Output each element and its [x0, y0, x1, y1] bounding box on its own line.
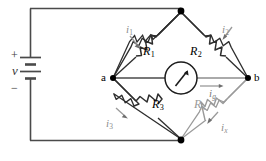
current-arrow-i3 — [116, 108, 128, 119]
resistor-label-R2: R2 — [190, 45, 202, 59]
resistor-label-R2-sub: 2 — [197, 50, 201, 59]
resistor-label-Rx-sub: x — [201, 103, 205, 112]
arm-bottom-left-straight-upper — [113, 78, 136, 101]
current-label-ix-sub: x — [224, 126, 228, 135]
arm-top-right-straight-lower — [226, 57, 248, 78]
resistor-label-R1: R1 — [143, 45, 155, 59]
node-dot-bottom — [178, 137, 185, 144]
source-plus-sign: + — [11, 49, 18, 61]
current-label-i1-sub: 1 — [129, 28, 133, 37]
current-label-i2-sub: 2 — [225, 28, 229, 37]
node-label-b: b — [254, 72, 260, 83]
source-voltage-label: v — [12, 64, 18, 77]
node-label-a: a — [101, 72, 106, 83]
resistor-label-R1-sub: 1 — [150, 50, 154, 59]
node-dot-a — [110, 75, 116, 81]
resistor-label-Rx: Rx — [194, 98, 205, 112]
current-label-i1: i1 — [126, 24, 133, 37]
arm-bottom-right-straight-lower — [181, 120, 206, 139]
current-label-ig-sub: g — [212, 92, 216, 101]
node-dot-top — [178, 8, 185, 15]
node-dot-b — [245, 75, 251, 81]
arm-top-left-straight-upper — [158, 12, 181, 35]
arm-bottom-left-straight-lower — [158, 118, 181, 139]
source-minus-sign: − — [11, 82, 18, 94]
current-arrow-ix — [207, 112, 218, 124]
resistor-label-R3: R3 — [152, 98, 164, 112]
arm-top-left-straight-lower — [113, 57, 136, 78]
arm-bottom-right-straight-upper — [228, 78, 248, 98]
current-label-i3: i3 — [106, 118, 113, 131]
current-label-ig: ig — [209, 88, 216, 101]
resistor-label-R3-sub: 3 — [159, 103, 163, 112]
battery-symbol — [20, 58, 41, 86]
current-label-i3-sub: 3 — [109, 122, 113, 131]
arm-top-right-straight-upper — [181, 12, 204, 35]
current-label-ix: ix — [221, 122, 228, 135]
circuit-diagram-figure: + v − a b R1 R2 R3 Rx i1 i2 i3 ix ig — [0, 0, 266, 161]
galvanometer-branch — [113, 62, 248, 94]
current-label-i2: i2 — [222, 24, 229, 37]
